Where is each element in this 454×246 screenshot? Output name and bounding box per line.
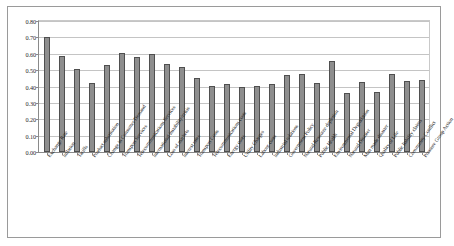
x-axis-label-cell: Pressure Group Action (415, 153, 430, 239)
y-axis-tick-label: 0.20 (26, 116, 36, 123)
x-axis-label-cell: Man made disaster (355, 153, 370, 239)
bar-column (84, 21, 99, 152)
y-axis-tick-label: 0.00 (26, 149, 36, 156)
x-axis-label-cell: Interest rates (174, 153, 189, 239)
bar (89, 83, 95, 152)
x-axis-label-cell: Energy costs (219, 153, 234, 239)
x-axis-label-cell: Utility Charges (234, 153, 249, 239)
y-axis-tick-label: 0.10 (26, 132, 36, 139)
bar-column (39, 21, 54, 152)
x-axis-label-cell: International instability/crisis (144, 153, 159, 239)
y-axis-tick-label: 0.70 (26, 34, 36, 41)
y-axis-tick-label: 0.40 (26, 83, 36, 90)
x-axis-label-cell: Government Policy (279, 153, 294, 239)
x-axis-label-cell: Telecommunications Services (128, 153, 143, 239)
x-axis-label-cell: Industrial relations (264, 153, 279, 239)
x-axis-label-cell: Natural Resource depletion (294, 153, 309, 239)
plot-area: 0.800.700.600.500.400.300.200.100.00 (38, 20, 430, 153)
x-axis-label-cell: Public liability claims (385, 153, 400, 239)
bar (74, 69, 80, 153)
x-axis-label-cell: Loss of markets (159, 153, 174, 239)
x-axis-label-cell: Community Conflict (400, 153, 415, 239)
x-axis-label-cell: Natural Disaster (340, 153, 355, 239)
x-axis-label-cell: Exchange Rate (38, 153, 53, 239)
y-axis-tick-label: 0.50 (26, 67, 36, 74)
bar-column (69, 21, 84, 152)
chart-frame: 0.800.700.600.500.400.300.200.100.00 Exc… (7, 6, 441, 238)
x-axis-label-cell: Quality of Life (370, 153, 385, 239)
x-axis-label-cell: Environmental Degradation (324, 153, 339, 239)
x-axis-label-cell: Public Health (309, 153, 324, 239)
bar-column (234, 21, 249, 152)
x-axis-label-cell: Labour costs (249, 153, 264, 239)
x-axis-label-cell: Change in Consumer Demand (98, 153, 113, 239)
x-axis-label-cell: Transport Costs (189, 153, 204, 239)
x-axis-label-cell: Product substitution (83, 153, 98, 239)
x-axis-category-labels: Exchange RateInflationTariffsProduct sub… (38, 153, 430, 239)
bar (44, 37, 50, 152)
x-axis-label-cell: Transport Services (113, 153, 128, 239)
x-axis-label-cell: Inflation (53, 153, 68, 239)
y-axis-tick-label: 0.60 (26, 50, 36, 57)
x-axis-label-cell: Tariffs (68, 153, 83, 239)
x-axis-label-cell: Telecommunications costs (204, 153, 219, 239)
y-axis-tick-label: 0.30 (26, 99, 36, 106)
y-axis-tick-label: 0.80 (26, 18, 36, 25)
bar-column (189, 21, 204, 152)
